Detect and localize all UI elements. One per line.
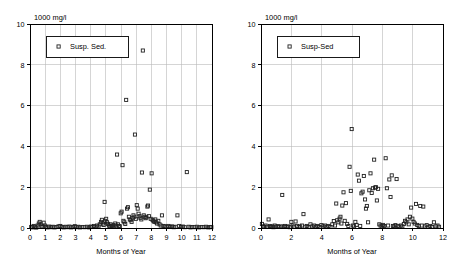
data-point: [410, 206, 413, 209]
data-point: [140, 171, 143, 174]
data-point: [341, 204, 344, 207]
data-point: [344, 202, 347, 205]
data-point: [432, 221, 435, 224]
data-point: [141, 49, 144, 52]
x-axis-tick-label: 6: [350, 233, 354, 242]
data-point: [395, 177, 398, 180]
x-axis-title: Months of Year: [96, 247, 146, 256]
data-point: [150, 172, 153, 175]
x-axis-tick-label: 10: [409, 233, 417, 242]
data-point: [135, 204, 138, 207]
data-point: [176, 214, 179, 217]
data-point: [302, 213, 305, 216]
data-point: [281, 193, 284, 196]
scatter-plot-left: 012345678910111202468101000 mg/lMonths o…: [0, 0, 230, 275]
y-axis-tick-label: 4: [252, 142, 256, 151]
data-point: [375, 199, 378, 202]
y-axis-tick-label: 8: [252, 61, 256, 70]
figure-canvas: 012345678910111202468101000 mg/lMonths o…: [0, 0, 461, 275]
x-axis-tick-label: 8: [380, 233, 384, 242]
x-axis-tick-label: 12: [439, 233, 447, 242]
y-axis-tick-label: 0: [21, 224, 25, 233]
x-axis-tick-label: 8: [149, 233, 153, 242]
data-point: [332, 220, 335, 223]
data-point: [148, 188, 151, 191]
data-point: [369, 172, 372, 175]
data-point: [267, 218, 270, 221]
x-axis-tick-label: 3: [74, 233, 78, 242]
data-point: [160, 214, 163, 217]
scatter-plot-right: 02468101202468101000 mg/lMonths of YearS…: [231, 0, 461, 275]
data-point: [384, 157, 387, 160]
data-point: [116, 153, 119, 156]
chart-panel-left: 012345678910111202468101000 mg/lMonths o…: [0, 0, 230, 275]
legend-label: Susp. Sed.: [70, 42, 106, 51]
x-axis-tick-label: 4: [89, 233, 93, 242]
data-point: [125, 98, 128, 101]
data-point: [121, 164, 124, 167]
x-axis-tick-label: 10: [178, 233, 186, 242]
legend-label: Susp-Sed: [301, 42, 333, 51]
data-point: [389, 195, 392, 198]
data-point: [357, 179, 360, 182]
y-axis-tick-label: 8: [21, 61, 25, 70]
y-axis-tick-label: 6: [252, 101, 256, 110]
y-axis-tick-label: 6: [21, 101, 25, 110]
y-axis-unit-label: 1000 mg/l: [265, 13, 298, 22]
data-point: [367, 221, 370, 224]
data-point: [359, 224, 362, 227]
data-point: [294, 220, 297, 223]
data-point: [335, 202, 338, 205]
data-point: [136, 207, 139, 210]
data-point: [373, 158, 376, 161]
x-axis-tick-label: 12: [208, 233, 216, 242]
data-point-group: [260, 128, 440, 229]
data-point: [388, 178, 391, 181]
x-axis-title: Months of Year: [327, 247, 377, 256]
x-axis-tick-label: 2: [58, 233, 62, 242]
chart-panel-right: 02468101202468101000 mg/lMonths of YearS…: [231, 0, 461, 275]
x-axis-tick-label: 9: [165, 233, 169, 242]
x-axis-tick-label: 1: [43, 233, 47, 242]
data-point: [414, 202, 417, 205]
data-point: [363, 198, 366, 201]
data-point: [390, 174, 393, 177]
y-axis-unit-label: 1000 mg/l: [34, 13, 67, 22]
y-axis-tick-label: 4: [21, 142, 25, 151]
x-axis-tick-label: 0: [259, 233, 263, 242]
x-axis-tick-label: 6: [119, 233, 123, 242]
y-axis-tick-label: 2: [252, 183, 256, 192]
y-axis-tick-label: 2: [21, 183, 25, 192]
x-axis-tick-label: 7: [134, 233, 138, 242]
y-axis-tick-label: 10: [17, 20, 25, 29]
x-axis-tick-label: 0: [28, 233, 32, 242]
data-point: [348, 165, 351, 168]
data-point: [342, 191, 345, 194]
x-axis-tick-label: 4: [320, 233, 324, 242]
data-point: [387, 224, 390, 227]
x-axis-tick-label: 2: [289, 233, 293, 242]
x-axis-tick-label: 11: [193, 233, 200, 242]
y-axis-tick-label: 10: [248, 20, 256, 29]
y-axis-tick-label: 0: [252, 224, 256, 233]
data-point: [362, 174, 365, 177]
data-point: [356, 173, 359, 176]
data-point: [185, 171, 188, 174]
data-point-group: [30, 49, 213, 229]
x-axis-tick-label: 5: [104, 233, 108, 242]
